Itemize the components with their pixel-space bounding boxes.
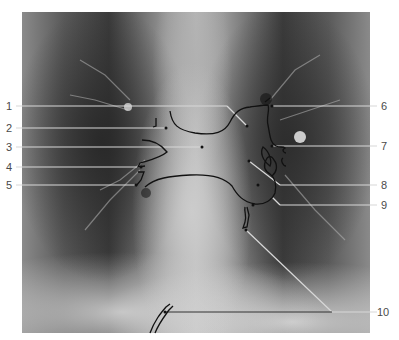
- bronchus-dark-spot-left: [141, 188, 151, 198]
- label-3: 3: [6, 141, 12, 153]
- dot-4: [140, 166, 143, 169]
- dot-2: [165, 127, 168, 130]
- label-8: 8: [381, 179, 387, 191]
- inner-loop-outline: [262, 147, 271, 166]
- leader-line-10-diag: [246, 230, 332, 312]
- label-6: 6: [381, 100, 387, 112]
- dot-10a: [245, 229, 248, 232]
- label-9: 9: [381, 199, 387, 211]
- left-upper-bronchus-outline: [153, 118, 156, 127]
- dot-10b: [164, 311, 167, 314]
- right-notch-outline: [282, 158, 286, 166]
- lower-outline: [145, 157, 276, 205]
- dot-9: [252, 204, 255, 207]
- label-10: 10: [377, 306, 389, 318]
- pointer-dots: [135, 105, 274, 314]
- catheter-outline-upper: [243, 207, 249, 228]
- dot-6: [271, 105, 274, 108]
- annotation-overlay: [0, 0, 399, 340]
- hilar-bright-spot: [124, 103, 132, 111]
- leader-lines: [16, 106, 377, 312]
- label-2: 2: [6, 122, 12, 134]
- nodule-bright-spot: [294, 131, 306, 143]
- dot-8b: [257, 184, 260, 187]
- label-5: 5: [6, 179, 12, 191]
- label-1: 1: [6, 100, 12, 112]
- leader-line-9-diag: [272, 197, 280, 205]
- label-7: 7: [381, 140, 387, 152]
- outline-shapes: [136, 98, 286, 333]
- dot-8a: [248, 160, 251, 163]
- middle-left-outline: [138, 140, 167, 167]
- upper-outline: [170, 105, 286, 153]
- dot-3: [201, 146, 204, 149]
- catheter-outline-lower-a: [150, 304, 170, 333]
- left-lower-outline: [136, 172, 144, 186]
- dot-5: [135, 184, 138, 187]
- bronchus-dark-spot: [260, 93, 272, 105]
- label-4: 4: [6, 161, 12, 173]
- dot-1: [246, 125, 249, 128]
- dot-7: [271, 145, 274, 148]
